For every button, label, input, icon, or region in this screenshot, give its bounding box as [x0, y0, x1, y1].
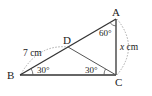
label-angle-dcb: 30° — [85, 65, 98, 75]
label-point-a: A — [112, 6, 120, 18]
label-angle-b: 30° — [37, 65, 50, 75]
angle-arc-b — [31, 69, 33, 76]
angle-arc-a — [110, 23, 116, 27]
triangle-diagram: A B C D 60° 30° 30° 7 cm x cm — [0, 0, 152, 96]
label-length-ac: x cm — [119, 42, 139, 52]
label-point-d: D — [63, 34, 71, 46]
label-length-bd: 7 cm — [23, 48, 42, 58]
label-point-b: B — [7, 69, 14, 81]
angle-arc-c — [104, 69, 106, 75]
label-point-c: C — [115, 76, 122, 88]
label-length-ac-unit: cm — [124, 42, 139, 52]
label-angle-a: 60° — [99, 28, 112, 38]
